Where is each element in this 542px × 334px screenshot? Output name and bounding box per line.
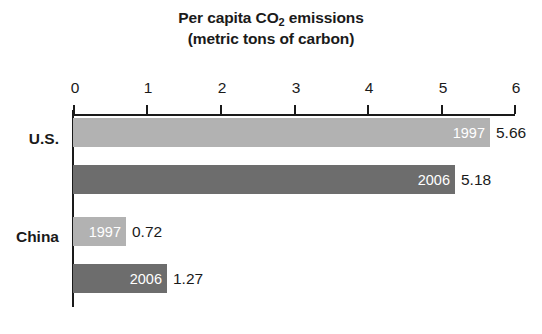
tick-label-4: 4 bbox=[354, 80, 384, 96]
bar-us-2006: 2006 5.18 bbox=[73, 165, 455, 194]
tick-label-2: 2 bbox=[207, 80, 237, 96]
chart-title-text-post: emissions bbox=[285, 9, 364, 26]
tick-label-3: 3 bbox=[281, 80, 311, 96]
bar-china-1997: 1997 0.72 bbox=[73, 217, 126, 246]
tick-label-0: 0 bbox=[60, 80, 90, 96]
tick-2 bbox=[220, 105, 222, 114]
category-label-china: China bbox=[0, 228, 59, 245]
chart-title-line-1: Per capita CO2 emissions bbox=[178, 9, 364, 26]
category-axis: U.S. China bbox=[0, 92, 73, 307]
chart-title-text-pre: Per capita CO bbox=[178, 9, 278, 26]
chart-subtitle: (metric tons of carbon) bbox=[0, 29, 542, 48]
co2-subscript: 2 bbox=[279, 16, 285, 28]
bar-china-2006: 2006 1.27 bbox=[73, 264, 167, 293]
chart-title: Per capita CO2 emissions (metric tons of… bbox=[0, 8, 542, 48]
bar-value-label: 0.72 bbox=[132, 224, 162, 240]
bar-year-label: 2006 bbox=[418, 172, 450, 188]
plot-area: 0 1 2 3 4 5 6 1997 5.66 2006 5.18 1997 0… bbox=[73, 92, 515, 307]
category-label-us: U.S. bbox=[0, 130, 59, 147]
bar-chart: Per capita CO2 emissions (metric tons of… bbox=[0, 0, 542, 334]
bar-value-label: 1.27 bbox=[173, 271, 203, 287]
tick-0 bbox=[73, 105, 75, 114]
tick-6 bbox=[514, 105, 516, 114]
bar-year-label: 2006 bbox=[130, 271, 162, 287]
bar-year-label: 1997 bbox=[453, 125, 485, 141]
tick-3 bbox=[294, 105, 296, 114]
tick-5 bbox=[441, 105, 443, 114]
bar-value-label: 5.18 bbox=[461, 172, 491, 188]
tick-1 bbox=[146, 105, 148, 114]
tick-label-5: 5 bbox=[428, 80, 458, 96]
bar-us-1997: 1997 5.66 bbox=[73, 118, 490, 147]
tick-label-1: 1 bbox=[133, 80, 163, 96]
tick-label-6: 6 bbox=[501, 80, 531, 96]
bar-year-label: 1997 bbox=[89, 224, 121, 240]
value-axis-line bbox=[73, 114, 515, 116]
tick-4 bbox=[367, 105, 369, 114]
bar-value-label: 5.66 bbox=[496, 125, 526, 141]
